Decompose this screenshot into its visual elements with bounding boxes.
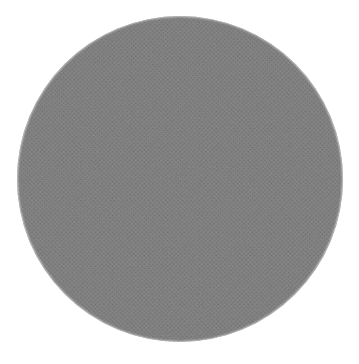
figure-canvas <box>0 0 359 364</box>
highlight-left-limb-lobe <box>17 16 343 342</box>
dark-patch-upper-right-lobe <box>17 16 343 342</box>
mid-tone-center-lobe <box>17 16 343 342</box>
halftone-screen-texture <box>17 16 343 342</box>
limb-edge-feather <box>17 16 343 342</box>
right-limb-rim-lobe <box>17 16 343 342</box>
mid-light-lower-right-lobe <box>17 16 343 342</box>
sphere-body <box>17 16 343 342</box>
limb-darkening-overlay <box>17 16 343 342</box>
dark-patch-upper-left-lobe <box>17 16 343 342</box>
dark-band-upper-center-lobe <box>17 16 343 342</box>
dot-screen-layer <box>17 16 343 342</box>
highlight-bottom-limb-lobe <box>17 16 343 342</box>
film-grain-layer <box>17 16 343 342</box>
halftone-svg <box>17 16 343 342</box>
dark-region-left-flank-lobe <box>17 16 343 342</box>
highlight-lower-left-lobe <box>17 16 343 342</box>
mid-light-right-flank-lobe <box>17 16 343 342</box>
